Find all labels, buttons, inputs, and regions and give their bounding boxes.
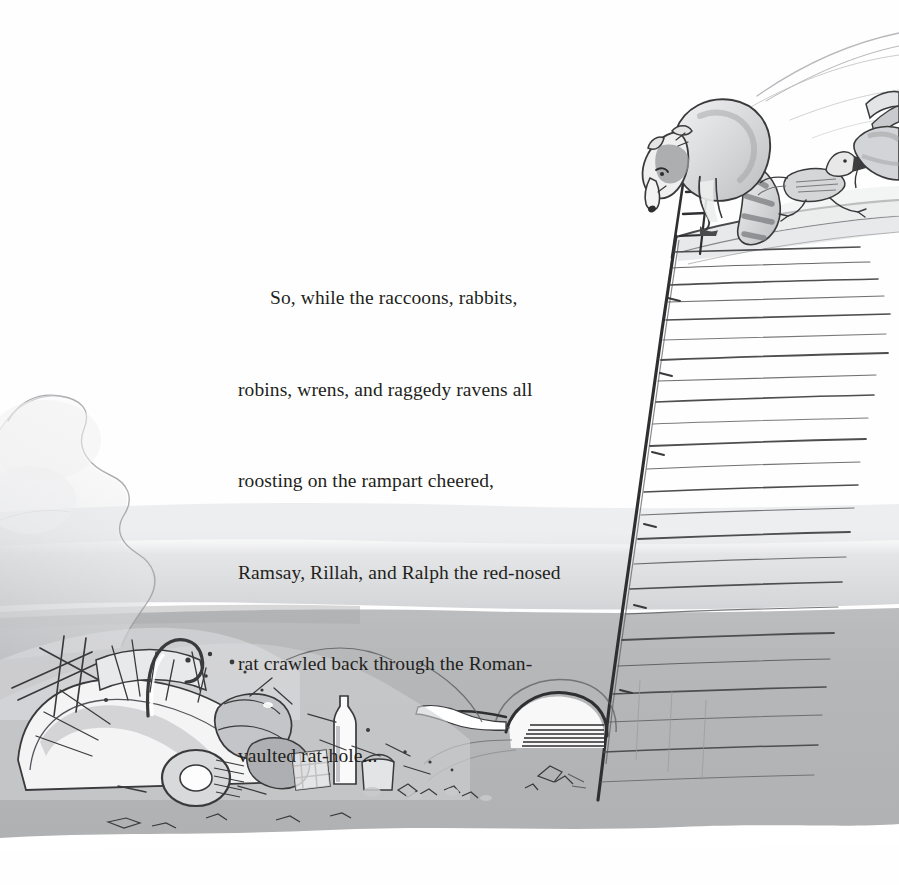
rabbit [854,92,899,189]
story-line-3: roosting on the rampart cheered, [238,466,598,497]
story-line-2: robins, wrens, and raggedy ravens all [238,375,598,406]
story-line-4: Ramsay, Rillah, and Ralph the red-nosed [238,558,598,589]
story-line-1: So, while the raccoons, rabbits, [238,283,598,314]
picture-book-page: So, while the raccoons, rabbits, robins,… [0,0,899,885]
story-line-6: vaulted rat-hole... [238,741,598,772]
raccoon [643,99,781,244]
story-text-block: So, while the raccoons, rabbits, robins,… [238,222,598,832]
story-line-5: rat crawled back through the Roman- [238,649,598,680]
